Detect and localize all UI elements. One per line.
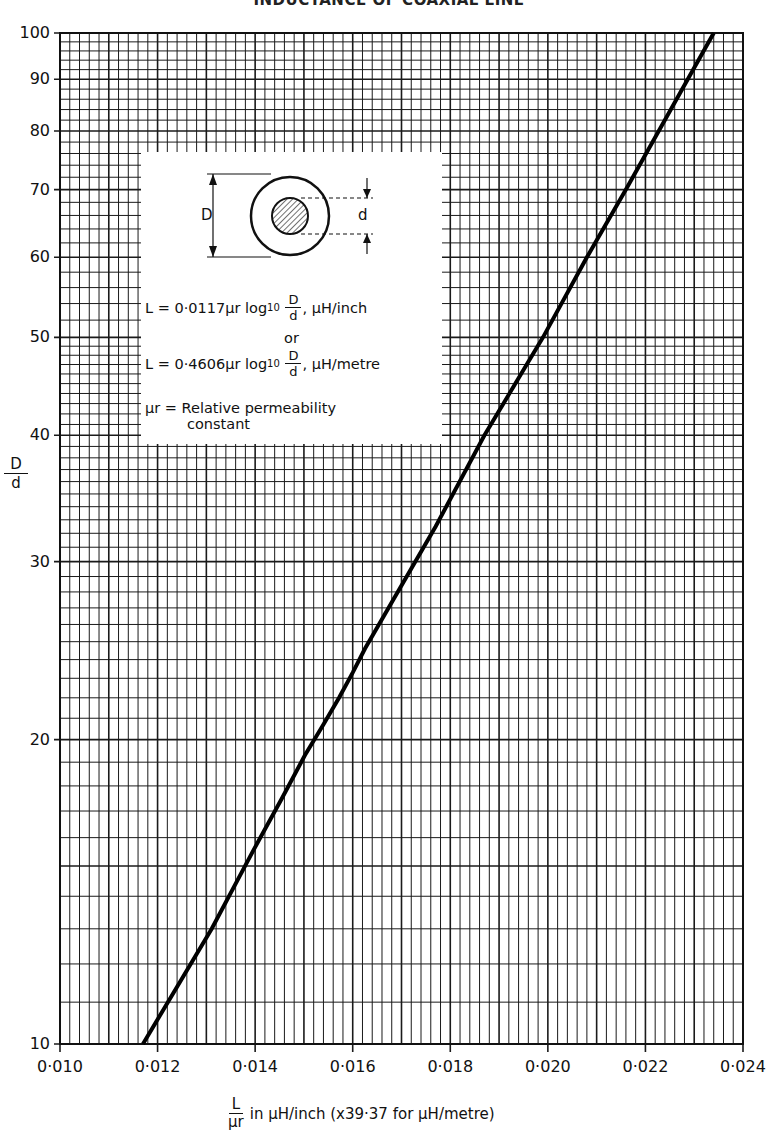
y-tick-label: 100 [8,23,50,42]
formula-inset-box: D d L = 0·0117μr log10 Dd , μH/inch or L… [141,152,442,444]
d-ratio-fraction: Dd [285,348,301,379]
permeability-line-1: μr = Relative permeability [145,400,336,416]
y-tick-label: 90 [8,69,50,88]
y-tick-label: 60 [8,247,50,266]
y-tick-label: 80 [8,121,50,140]
log-subscript: 10 [267,302,280,313]
fraction-numerator: D [285,292,301,308]
y-tick-label: 20 [8,730,50,749]
coaxial-cross-section-diagram [141,152,442,272]
formula-metre: L = 0·4606μr log10 Dd , μH/metre [145,348,380,379]
fraction-numerator: D [285,348,301,364]
x-tick-label: 0·022 [605,1057,685,1076]
x-axis-title: L μr in μH/inch (x39·37 for μH/metre) [228,1096,495,1131]
x-axis-title-denominator: μr [228,1114,244,1131]
x-tick-label: 0·010 [20,1057,100,1076]
d-ratio-fraction: Dd [285,292,301,323]
formula-inch-unit: , μH/inch [302,300,367,316]
formula-inch-prefix: L = 0·0117μr log [145,300,267,316]
outer-diameter-label: D [201,206,213,224]
y-axis-title-denominator: d [4,474,28,492]
or-text: or [141,330,442,346]
fraction-denominator: d [289,308,297,323]
x-axis-title-text: in μH/inch (x39·37 for μH/metre) [250,1105,495,1123]
fraction-denominator: d [289,364,297,379]
y-tick-label: 40 [8,425,50,444]
permeability-line-2: constant [145,416,336,432]
x-tick-label: 0·014 [215,1057,295,1076]
x-tick-label: 0·012 [118,1057,198,1076]
y-axis-title: D d [4,455,28,492]
inner-diameter-label: d [358,206,368,224]
x-tick-label: 0·024 [703,1057,778,1076]
log-subscript: 10 [267,358,280,369]
x-tick-label: 0·016 [313,1057,393,1076]
x-tick-label: 0·018 [410,1057,490,1076]
formula-metre-unit: , μH/metre [302,356,380,372]
permeability-note: μr = Relative permeability constant [145,400,336,432]
y-tick-label: 70 [8,180,50,199]
y-axis-title-numerator: D [4,455,28,474]
y-tick-label: 50 [8,327,50,346]
formula-inch: L = 0·0117μr log10 Dd , μH/inch [145,292,367,323]
y-tick-label: 10 [8,1034,50,1053]
x-axis-title-fraction: L μr [228,1096,244,1131]
x-tick-label: 0·020 [508,1057,588,1076]
y-tick-label: 30 [8,552,50,571]
x-axis-title-numerator: L [229,1096,243,1114]
formula-metre-prefix: L = 0·4606μr log [145,356,267,372]
